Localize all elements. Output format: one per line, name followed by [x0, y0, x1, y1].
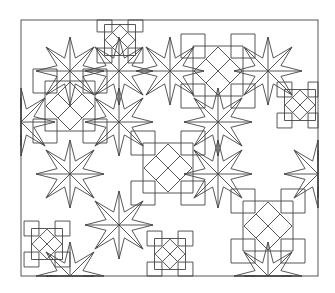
pattern-svg	[0, 0, 335, 293]
geometric-pattern-figure	[0, 0, 335, 293]
